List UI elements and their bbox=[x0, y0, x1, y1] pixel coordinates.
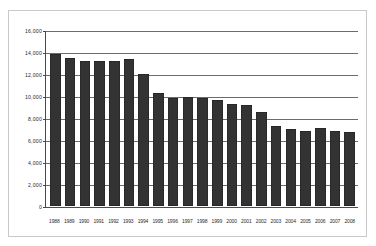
y-tick-label: 4,000 bbox=[28, 160, 42, 166]
bar bbox=[168, 98, 179, 206]
bar-slot bbox=[195, 31, 210, 206]
y-tick-mark bbox=[43, 207, 46, 208]
x-tick-label: 2001 bbox=[241, 218, 252, 224]
x-tick: 2005 bbox=[298, 209, 313, 227]
bar bbox=[183, 97, 194, 206]
bar bbox=[212, 100, 223, 206]
x-tick: 2002 bbox=[254, 209, 269, 227]
x-tick: 1992 bbox=[106, 209, 121, 227]
y-tick-label: 12,000 bbox=[25, 72, 42, 78]
bar-slot bbox=[151, 31, 166, 206]
bar bbox=[286, 129, 297, 206]
bar-slot bbox=[239, 31, 254, 206]
y-tick-label: 2,000 bbox=[28, 182, 42, 188]
bar-slot bbox=[328, 31, 343, 206]
x-tick: 1989 bbox=[62, 209, 77, 227]
y-tick-mark bbox=[43, 119, 46, 120]
bar bbox=[80, 61, 91, 206]
x-tick: 2000 bbox=[224, 209, 239, 227]
plot-wrapper: 16,00014,00012,00010,0008,0006,0004,0002… bbox=[45, 31, 358, 208]
x-tick: 1999 bbox=[209, 209, 224, 227]
x-tick-label: 1996 bbox=[167, 218, 178, 224]
x-tick-label: 1997 bbox=[182, 218, 193, 224]
bar-slot bbox=[107, 31, 122, 206]
x-tick-label: 2004 bbox=[285, 218, 296, 224]
x-tick: 2001 bbox=[239, 209, 254, 227]
bar-slot bbox=[122, 31, 137, 206]
bar-slot bbox=[77, 31, 92, 206]
x-tick: 2004 bbox=[283, 209, 298, 227]
y-tick-mark bbox=[43, 75, 46, 76]
x-tick-label: 1995 bbox=[152, 218, 163, 224]
bar-slot bbox=[342, 31, 357, 206]
x-tick-label: 1998 bbox=[197, 218, 208, 224]
x-tick: 1995 bbox=[150, 209, 165, 227]
y-tick-mark bbox=[43, 185, 46, 186]
x-tick-label: 2003 bbox=[271, 218, 282, 224]
x-tick-label: 1994 bbox=[138, 218, 149, 224]
bar bbox=[50, 54, 61, 206]
bar bbox=[65, 58, 76, 206]
x-tick: 1996 bbox=[165, 209, 180, 227]
bar-slot bbox=[92, 31, 107, 206]
x-tick-label: 1989 bbox=[64, 218, 75, 224]
bar-slot bbox=[298, 31, 313, 206]
plot-area: 16,00014,00012,00010,0008,0006,0004,0002… bbox=[45, 31, 358, 208]
x-tick-label: 2000 bbox=[226, 218, 237, 224]
x-tick: 1988 bbox=[47, 209, 62, 227]
bar bbox=[271, 126, 282, 206]
bar bbox=[330, 131, 341, 206]
x-tick-label: 2006 bbox=[315, 218, 326, 224]
x-tick-label: 1991 bbox=[93, 218, 104, 224]
bar-slot bbox=[136, 31, 151, 206]
bar-slot bbox=[254, 31, 269, 206]
x-tick-label: 2008 bbox=[344, 218, 355, 224]
bar-slot bbox=[284, 31, 299, 206]
bar bbox=[227, 104, 238, 206]
y-tick-mark bbox=[43, 31, 46, 32]
x-tick: 1997 bbox=[180, 209, 195, 227]
bar bbox=[138, 74, 149, 206]
bar bbox=[124, 59, 135, 206]
bar-slot bbox=[269, 31, 284, 206]
y-tick-mark bbox=[43, 53, 46, 54]
bar bbox=[197, 98, 208, 206]
bar-series bbox=[47, 31, 358, 206]
y-tick-mark bbox=[43, 141, 46, 142]
bar bbox=[241, 105, 252, 206]
bar-slot bbox=[225, 31, 240, 206]
x-axis-labels: 1988198919901991199219931994199519961997… bbox=[46, 209, 358, 227]
bar bbox=[153, 93, 164, 206]
bar bbox=[300, 131, 311, 206]
x-tick: 1993 bbox=[121, 209, 136, 227]
x-tick: 2008 bbox=[342, 209, 357, 227]
x-tick-label: 1999 bbox=[212, 218, 223, 224]
y-tick-label: 0 bbox=[39, 204, 42, 210]
y-tick-mark bbox=[43, 163, 46, 164]
x-tick: 2003 bbox=[268, 209, 283, 227]
bar bbox=[315, 128, 326, 206]
x-tick-label: 1993 bbox=[123, 218, 134, 224]
x-tick-label: 2002 bbox=[256, 218, 267, 224]
bar-slot bbox=[180, 31, 195, 206]
bar-slot bbox=[313, 31, 328, 206]
x-tick: 1991 bbox=[91, 209, 106, 227]
bar-slot bbox=[48, 31, 63, 206]
bar bbox=[94, 61, 105, 206]
bar-slot bbox=[210, 31, 225, 206]
x-tick-label: 1988 bbox=[49, 218, 60, 224]
x-tick: 1994 bbox=[136, 209, 151, 227]
x-tick-label: 2005 bbox=[300, 218, 311, 224]
bar bbox=[109, 61, 120, 206]
y-tick-label: 6,000 bbox=[28, 138, 42, 144]
x-tick: 2007 bbox=[328, 209, 343, 227]
y-tick-mark bbox=[43, 97, 46, 98]
x-tick: 2006 bbox=[313, 209, 328, 227]
x-tick: 1990 bbox=[77, 209, 92, 227]
bar-slot bbox=[63, 31, 78, 206]
chart-figure: 16,00014,00012,00010,0008,0006,0004,0002… bbox=[0, 0, 376, 246]
x-tick-label: 1990 bbox=[79, 218, 90, 224]
x-tick-label: 2007 bbox=[330, 218, 341, 224]
x-tick: 1998 bbox=[195, 209, 210, 227]
bar-slot bbox=[166, 31, 181, 206]
